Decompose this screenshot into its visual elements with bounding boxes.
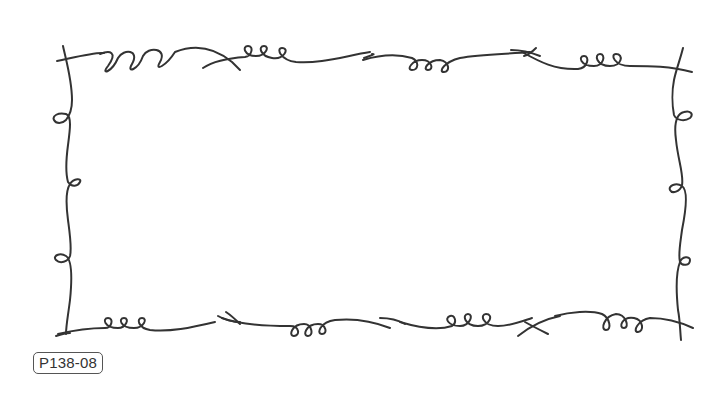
right-border <box>670 48 692 340</box>
left-border <box>54 46 81 336</box>
top-curl-group-3b <box>363 52 530 72</box>
product-code-label: P138-08 <box>33 352 103 374</box>
bottom-cross-2 <box>518 316 560 336</box>
top-curl-group-2 <box>203 46 370 68</box>
top-border <box>57 46 692 72</box>
top-curl-group-1 <box>100 48 240 72</box>
top-curl-group-4c <box>522 52 692 72</box>
bottom-curl-group-3b <box>400 314 532 328</box>
doodle-frame <box>0 0 723 400</box>
bottom-curl-group-4 <box>555 312 693 332</box>
right-side-curls <box>670 48 692 340</box>
left-side-curls <box>54 46 81 334</box>
bottom-curl-group-1 <box>58 318 215 334</box>
bottom-border <box>58 312 693 336</box>
bottom-curl-group-2 <box>222 318 390 336</box>
